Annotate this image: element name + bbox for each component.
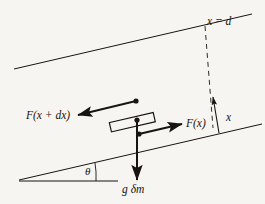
- diagram-canvas: [0, 0, 265, 204]
- label-x-equals-d: x = d: [207, 16, 231, 28]
- gravity-origin-dot: [134, 117, 139, 122]
- label-force-x-plus-dx: F(x + dx): [26, 110, 70, 122]
- theta-angle-arc: [95, 163, 96, 181]
- force-x-plus-dx-origin-dot: [133, 98, 138, 103]
- force-x-arrow: [139, 124, 182, 134]
- label-gravity: g δm: [122, 184, 144, 196]
- x-equals-d-dashed-line: [205, 26, 213, 128]
- label-theta: θ: [85, 166, 90, 177]
- label-distance-x: x: [226, 112, 231, 124]
- label-force-x: F(x): [186, 118, 206, 130]
- physics-diagram: x = d F(x + dx) F(x) x θ g δm: [0, 0, 265, 204]
- distance-x-arrow: [213, 97, 219, 133]
- fluid-element-rectangle: [109, 112, 155, 131]
- force-x-plus-dx-arrow: [78, 101, 136, 115]
